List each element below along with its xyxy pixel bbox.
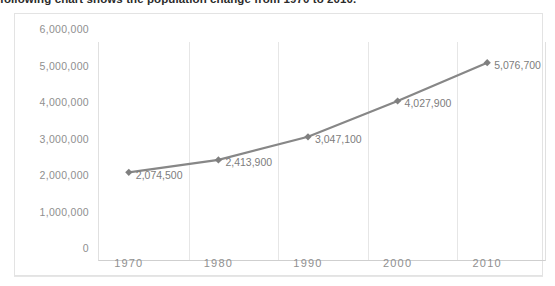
data-point-marker[interactable] bbox=[394, 97, 401, 104]
intro-text: following chart shows the population cha… bbox=[0, 0, 555, 7]
chart-object-frame[interactable]: 6,000,0005,000,0004,000,0003,000,0002,00… bbox=[14, 13, 543, 276]
data-point-marker[interactable] bbox=[125, 169, 132, 176]
data-point-label: 5,076,700 bbox=[494, 59, 541, 71]
data-point-label: 3,047,100 bbox=[315, 133, 362, 145]
data-point-marker[interactable] bbox=[215, 156, 222, 163]
data-point-label: 2,413,900 bbox=[225, 156, 272, 168]
line-series: 2,074,5002,413,9003,047,1004,027,9005,07… bbox=[15, 14, 544, 277]
data-point-label: 2,074,500 bbox=[136, 169, 183, 181]
bottom-divider bbox=[14, 276, 543, 277]
data-point-label: 4,027,900 bbox=[405, 97, 452, 109]
data-point-marker[interactable] bbox=[484, 59, 491, 66]
series-line bbox=[129, 63, 487, 173]
data-point-marker[interactable] bbox=[304, 133, 311, 140]
